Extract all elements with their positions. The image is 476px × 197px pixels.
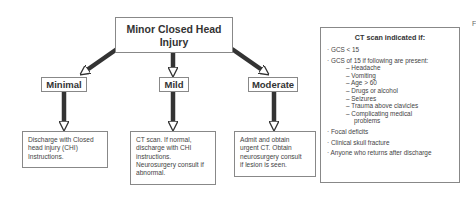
ct-subitem: – Complicating medical [327, 110, 453, 118]
ct-subitem-continued: problems [327, 117, 453, 125]
dash-icon: – [346, 102, 350, 109]
ct-heading: CT scan indicated if: [327, 33, 453, 42]
outcome-line: CT scan. If normal, [136, 136, 210, 144]
ct-subitem: – Age > 60 [327, 79, 453, 87]
outcome-line: Admit and obtain [240, 136, 310, 144]
item-text: Vomiting [351, 72, 376, 79]
dash-icon: – [346, 72, 350, 79]
outcome-line: Discharge with Closed [28, 136, 102, 144]
ct-subitem: – Trauma above clavicles [327, 102, 453, 110]
item-text: Anyone who returns after discharge [331, 149, 432, 156]
outcome-minimal: Discharge with Closed head injury (CHI) … [22, 131, 108, 168]
item-text: Headache [351, 64, 380, 71]
item-text: Clinical skull fracture [331, 139, 390, 146]
arrow-root-to-minimal [84, 49, 117, 72]
ct-indication-box: CT scan indicated if: · GCS < 15 · GCS o… [320, 27, 460, 183]
category-mild: Mild [159, 77, 189, 92]
arrow-root-to-moderate [232, 49, 265, 72]
category-moderate: Moderate [248, 77, 298, 92]
outcome-line: urgent CT. Obtain [240, 144, 310, 152]
item-text: Complicating medical [351, 110, 412, 117]
ct-item-focal: · Focal deficits [327, 128, 453, 136]
category-minimal: Minimal [41, 77, 87, 92]
outcome-line: head injury (CHI) [28, 144, 102, 152]
dash-icon: – [346, 64, 350, 71]
bullet-icon: · [327, 149, 329, 156]
bullet-icon: · [327, 139, 329, 146]
outcome-line: neurosurgery consult [240, 153, 310, 161]
root-node: Minor Closed Head Injury [115, 17, 233, 53]
item-text: Focal deficits [331, 128, 368, 135]
dash-icon: – [346, 110, 350, 117]
outcome-line: Instructions. [28, 153, 102, 161]
cropped-text: F [472, 20, 476, 27]
root-line-1: Minor Closed Head [116, 23, 232, 36]
outcome-line: Neurosurgery consult if [136, 161, 210, 169]
ct-subitem: – Seizures [327, 95, 453, 103]
outcome-line: if lesion is seen. [240, 161, 310, 169]
outcome-line: instructions. [136, 153, 210, 161]
ct-item-gcs-lt-15: · GCS < 15 [327, 46, 453, 54]
bullet-icon: · [327, 46, 329, 53]
ct-item-gcs-15: · GCS of 15 if following are present: [327, 57, 453, 65]
item-text: GCS < 15 [331, 46, 359, 53]
ct-subitem: – Vomiting [327, 72, 453, 80]
bullet-icon: · [327, 57, 329, 64]
item-text: GCS of 15 if following are present: [331, 57, 428, 64]
dash-icon: – [346, 95, 350, 102]
ct-subitem: – Drugs or alcohol [327, 87, 453, 95]
item-text: Drugs or alcohol [351, 87, 398, 94]
dash-icon: – [346, 79, 350, 86]
item-text: Trauma above clavicles [351, 102, 418, 109]
outcome-line: discharge with CHI [136, 144, 210, 152]
root-line-2: Injury [116, 36, 232, 49]
outcome-moderate: Admit and obtain urgent CT. Obtain neuro… [234, 131, 316, 177]
outcome-mild: CT scan. If normal, discharge with CHI i… [130, 131, 216, 185]
item-text: Seizures [351, 95, 376, 102]
ct-item-skull: · Clinical skull fracture [327, 139, 453, 147]
bullet-icon: · [327, 128, 329, 135]
item-text: Age > 60 [351, 79, 377, 86]
dash-icon: – [346, 87, 350, 94]
ct-item-returns: · Anyone who returns after discharge [327, 149, 453, 157]
outcome-line: abnormal. [136, 169, 210, 177]
ct-subitem: – Headache [327, 64, 453, 72]
